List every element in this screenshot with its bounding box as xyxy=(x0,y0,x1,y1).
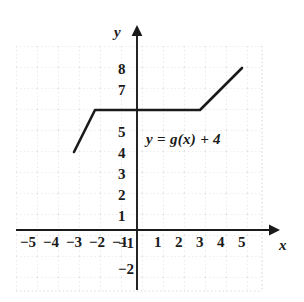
x-tick-label-1: 1 xyxy=(154,235,162,250)
coordinate-plot xyxy=(0,0,304,302)
y-tick-label-minus-2: −2 xyxy=(118,262,134,277)
x-tick-label-minus-5: −5 xyxy=(20,235,36,250)
y-tick-label-8: 8 xyxy=(118,62,126,77)
x-tick-label-minus-3: −3 xyxy=(66,235,82,250)
x-tick-label-4: 4 xyxy=(217,235,225,250)
y-tick-label-1: 1 xyxy=(118,209,126,224)
y-axis-label: y xyxy=(114,25,121,40)
y-tick-label-5: 5 xyxy=(118,125,126,140)
x-tick-label-minus-1: −1 xyxy=(112,235,128,250)
x-tick-label-2: 2 xyxy=(175,235,183,250)
x-tick-label-5: 5 xyxy=(238,235,246,250)
function-equation-label: y = g(x) + 4 xyxy=(146,132,221,147)
x-tick-label-minus-2: −2 xyxy=(89,235,105,250)
y-tick-label-7: 7 xyxy=(118,83,126,98)
y-tick-label-3: 3 xyxy=(118,167,126,182)
y-axis-arrowhead xyxy=(132,25,143,36)
y-tick-label-2: 2 xyxy=(118,188,126,203)
x-tick-label-minus-4: −4 xyxy=(43,235,59,250)
x-axis-arrowhead xyxy=(269,225,280,236)
x-tick-label-3: 3 xyxy=(196,235,204,250)
graph-figure: y x 8 7 5 4 3 2 1 −1 −2 −5 −4 −3 −2 −1 1… xyxy=(0,0,304,302)
y-tick-label-4: 4 xyxy=(118,146,126,161)
grid-lines xyxy=(16,46,262,291)
x-axis-label: x xyxy=(279,238,287,253)
